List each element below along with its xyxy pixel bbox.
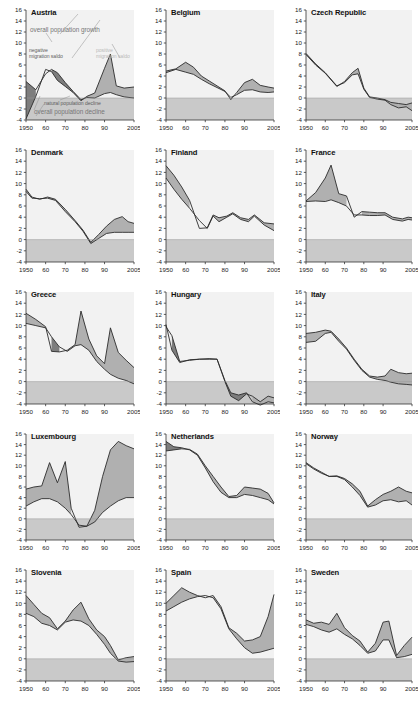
y-tick-label: 0: [19, 236, 23, 243]
y-tick-label: 2: [159, 644, 163, 651]
negative-zone-band: [166, 659, 274, 681]
y-tick-label: 12: [155, 451, 162, 458]
y-tick-label: 2: [159, 367, 163, 374]
y-tick-label: 0: [19, 94, 23, 101]
x-tick-label: 60: [42, 124, 49, 131]
x-tick-label: 60: [182, 266, 189, 273]
x-tick-label: 1950: [159, 124, 173, 131]
x-tick-label: 60: [42, 266, 49, 273]
x-tick-label: 60: [322, 266, 329, 273]
panel-title: Finland: [171, 148, 197, 157]
negative-zone-band: [26, 519, 134, 540]
y-tick-label: 0: [159, 378, 163, 385]
y-tick-label: 14: [295, 157, 302, 164]
x-tick-label: 90: [241, 544, 248, 551]
y-tick-label: -2: [296, 247, 302, 254]
y-tick-label: 12: [155, 169, 162, 176]
y-tick-label: 8: [299, 473, 303, 480]
y-tick-label: 4: [299, 213, 303, 220]
y-tick-label: -2: [16, 247, 22, 254]
y-tick-label: 14: [295, 441, 302, 448]
x-tick-label: 70: [341, 266, 348, 273]
y-tick-label: 4: [19, 72, 23, 79]
y-tick-label: 10: [15, 462, 22, 469]
x-tick-label: 70: [341, 544, 348, 551]
x-tick-label: 80: [221, 408, 228, 415]
y-tick-label: -2: [16, 526, 22, 533]
x-tick-label: 80: [221, 685, 228, 692]
y-tick-label: 12: [295, 588, 302, 595]
y-tick-label: 4: [299, 633, 303, 640]
x-tick-label: 1950: [299, 685, 313, 692]
chart-panel-spain: -4-202468101214161950607080902005Spain: [140, 560, 280, 701]
y-tick-label: 12: [295, 451, 302, 458]
y-tick-label: -4: [156, 400, 162, 407]
y-tick-label: 4: [299, 355, 303, 362]
negative-zone-band: [166, 519, 274, 540]
x-tick-label: 60: [182, 124, 189, 131]
x-tick-label: 2005: [127, 544, 140, 551]
y-tick-label: -4: [16, 536, 22, 543]
y-tick-label: 8: [299, 333, 303, 340]
panel-title: Belgium: [171, 8, 200, 17]
y-tick-label: 10: [155, 39, 162, 46]
y-tick-label: 16: [15, 566, 22, 573]
y-tick-label: 12: [155, 588, 162, 595]
y-tick-label: 12: [295, 28, 302, 35]
x-tick-label: 1950: [299, 124, 313, 131]
y-tick-label: 16: [15, 288, 22, 295]
x-tick-label: 90: [241, 408, 248, 415]
chart-panel-norway: -4-202468101214161950607080902005Norway: [280, 424, 418, 560]
y-tick-label: 14: [155, 17, 162, 24]
x-tick-label: 90: [380, 266, 387, 273]
y-tick-label: 8: [159, 611, 163, 618]
x-tick-label: 60: [42, 408, 49, 415]
negative-zone-band: [26, 240, 134, 262]
negative-zone-band: [26, 382, 134, 404]
panel-title: Italy: [311, 290, 326, 299]
annotation-label: natural population decline: [44, 100, 101, 106]
x-tick-label: 70: [202, 266, 209, 273]
chart-panel-austria: -4-202468101214161950607080902005Austria…: [0, 0, 140, 140]
y-tick-label: 10: [15, 600, 22, 607]
y-tick-label: 4: [299, 494, 303, 501]
y-tick-label: 4: [19, 633, 23, 640]
x-tick-label: 1950: [19, 124, 33, 131]
y-tick-label: 10: [155, 322, 162, 329]
chart-panel-hungary: -4-202468101214161950607080902005Hungary: [140, 282, 280, 424]
y-tick-label: 14: [15, 17, 22, 24]
y-tick-label: 6: [159, 202, 163, 209]
x-tick-label: 90: [241, 685, 248, 692]
y-tick-label: 0: [299, 236, 303, 243]
x-tick-label: 90: [101, 544, 108, 551]
y-tick-label: -4: [296, 677, 302, 684]
panel-title: Spain: [171, 568, 191, 577]
x-tick-label: 2005: [405, 124, 418, 131]
chart-panel-france: -4-202468101214161950607080902005France: [280, 140, 418, 282]
y-tick-label: -4: [156, 258, 162, 265]
y-tick-label: 12: [155, 311, 162, 318]
y-tick-label: -2: [16, 666, 22, 673]
x-tick-label: 60: [322, 408, 329, 415]
y-tick-label: 14: [155, 441, 162, 448]
y-tick-label: 16: [155, 146, 162, 153]
y-tick-label: 2: [159, 83, 163, 90]
x-tick-label: 70: [341, 408, 348, 415]
y-tick-label: 16: [295, 566, 302, 573]
x-tick-label: 70: [62, 124, 69, 131]
y-tick-label: 8: [299, 50, 303, 57]
y-tick-label: 14: [155, 157, 162, 164]
x-tick-label: 60: [182, 685, 189, 692]
x-tick-label: 2005: [267, 544, 280, 551]
y-tick-label: 4: [159, 633, 163, 640]
x-tick-label: 2005: [405, 544, 418, 551]
x-tick-label: 70: [62, 685, 69, 692]
x-tick-label: 80: [81, 266, 88, 273]
y-tick-label: 2: [19, 83, 23, 90]
x-tick-label: 80: [221, 124, 228, 131]
chart-panel-czech-republic: -4-202468101214161950607080902005Czech R…: [280, 0, 418, 140]
x-tick-label: 80: [81, 685, 88, 692]
x-tick-label: 70: [341, 685, 348, 692]
y-tick-label: -2: [296, 666, 302, 673]
chart-panel-italy: -4-202468101214161950607080902005Italy: [280, 282, 418, 424]
